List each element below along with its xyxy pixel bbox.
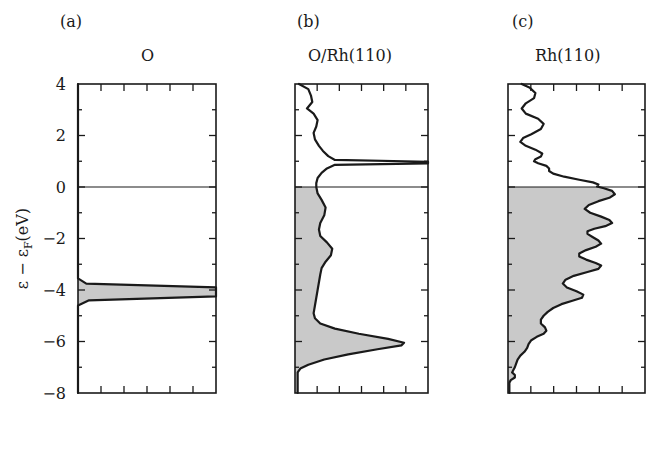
occupied-states-fill (78, 187, 216, 393)
occupied-states-fill (508, 187, 615, 393)
dos-curve (78, 84, 216, 393)
dos-figure: (a) (b) (c) O O/Rh(110) Rh(110) ε − εF(e… (0, 0, 660, 453)
panel-plot-c (508, 84, 645, 393)
plot-canvas (0, 0, 660, 453)
occupied-states-fill (295, 187, 404, 393)
panel-plot-a (78, 84, 216, 393)
panel-plot-b (295, 84, 428, 393)
panel-frame (78, 84, 216, 393)
